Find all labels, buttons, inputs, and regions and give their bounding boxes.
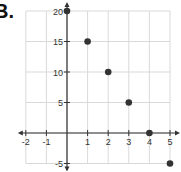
data-point <box>167 160 174 167</box>
x-tick-label: -2 <box>22 137 30 147</box>
x-axis-left-arrow-icon <box>18 131 23 136</box>
y-tick-label: -5 <box>55 159 63 169</box>
data-point <box>105 69 112 76</box>
data-point <box>84 38 91 45</box>
data-point <box>64 8 71 15</box>
y-tick-label: 10 <box>53 68 63 78</box>
scatter-plot: -2-112345-55101520 <box>0 0 181 171</box>
x-tick-label: 3 <box>126 137 131 147</box>
y-tick-label: 20 <box>53 7 63 17</box>
x-axis-right-arrow-icon <box>175 131 180 136</box>
y-axis-top-arrow-icon <box>65 2 70 7</box>
x-tick-label: 2 <box>106 137 111 147</box>
y-tick-label: 15 <box>53 37 63 47</box>
y-axis-bottom-arrow-icon <box>65 167 70 172</box>
x-tick-label: 5 <box>167 137 172 147</box>
data-point <box>126 99 133 106</box>
x-tick-label: -1 <box>42 137 50 147</box>
y-tick-label: 5 <box>58 98 63 108</box>
x-tick-label: 4 <box>147 137 152 147</box>
x-tick-label: 1 <box>85 137 90 147</box>
data-points <box>64 8 174 167</box>
tick-labels: -2-112345-55101520 <box>22 7 173 170</box>
data-point <box>146 130 153 137</box>
